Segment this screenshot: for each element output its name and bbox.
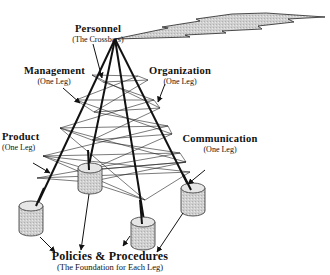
management-label: Management (One Leg) [24,66,84,86]
personnel-label: Personnel (The Crossbars) [60,24,136,44]
product-leg [37,39,115,205]
management-arrow [63,88,80,103]
personnel-title: Personnel [60,24,136,35]
communication-title: Communication [178,134,262,145]
tower-diagram [0,0,330,275]
organization-subtitle: (One Leg) [142,78,218,86]
foundation-arrow-front [123,236,130,246]
product-arrow [33,163,50,173]
cylinder-left [19,188,44,236]
personnel-subtitle: (The Crossbars) [60,36,136,44]
communication-arrow [188,170,205,184]
policies-subtitle: (The Foundation for Each Leg) [50,263,170,272]
foundation-arrow-right [157,213,183,252]
cylinder-front [131,200,155,250]
product-title: Product [2,132,42,143]
management-leg [88,39,115,170]
foundation-arrow-back [81,194,89,250]
organization-arrow [158,84,165,102]
product-subtitle: (One Leg) [2,144,42,152]
personnel-crossbars [37,75,190,200]
product-label: Product (One Leg) [2,132,42,152]
personnel-arrow [93,44,102,78]
communication-subtitle: (One Leg) [178,146,262,154]
communication-label: Communication (One Leg) [178,134,262,154]
policies-label: Policies & Procedures (The Foundation fo… [50,250,170,272]
management-subtitle: (One Leg) [24,78,84,86]
lightning-bolt [115,13,325,39]
organization-title: Organization [142,66,218,77]
policies-title: Policies & Procedures [50,250,170,262]
organization-label: Organization (One Leg) [142,66,218,86]
management-title: Management [24,66,84,77]
